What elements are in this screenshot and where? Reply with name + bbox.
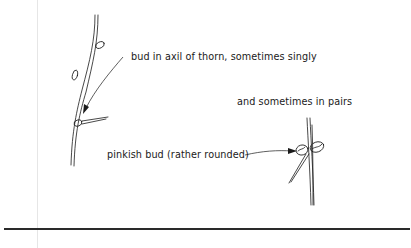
arrowhead-pinkish: [288, 148, 297, 154]
annotation-pinkish-bud: pinkish bud (rather rounded): [107, 148, 249, 160]
arrowhead-single: [83, 104, 89, 114]
arrow-pinkish-bud: [245, 151, 292, 155]
botanical-sketch: [0, 0, 411, 248]
horizontal-rule: [4, 228, 410, 230]
stem-paired-buds-drawing: [289, 118, 325, 205]
arrow-single-bud: [86, 57, 123, 108]
stem-single-bud-drawing: [71, 15, 108, 166]
annotation-single-bud: bud in axil of thorn, sometimes singly: [131, 50, 317, 62]
annotation-paired-buds: and sometimes in pairs: [237, 95, 352, 107]
